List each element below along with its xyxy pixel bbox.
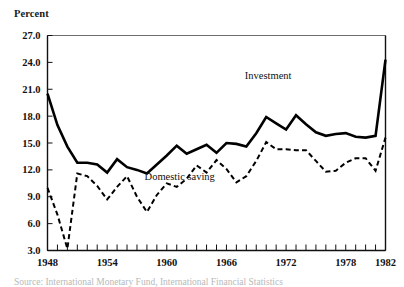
y-tick-label: 6.0 [27,218,40,229]
y-tick-label: 12.0 [22,164,40,175]
x-tick-label: 1948 [37,257,58,268]
y-tick-label: 15.0 [22,138,40,149]
series-line-investment [48,60,386,174]
x-tick-label: 1966 [216,257,237,268]
y-tick-label: 9.0 [27,191,40,202]
x-axis-ticks: 1948195419601966197219781982 [37,245,396,268]
x-tick-label: 1982 [375,257,396,268]
y-tick-label: 3.0 [27,245,40,256]
series-annotations: InvestmentDomestic saving [145,70,292,182]
source-note: Source: International Monetary Fund, Int… [14,277,283,287]
plot-border [48,36,386,251]
x-tick-label: 1972 [276,257,297,268]
x-tick-label: 1954 [97,257,119,268]
y-tick-label: 18.0 [22,111,40,122]
x-tick-label: 1960 [156,257,177,268]
y-tick-label: 27.0 [22,30,40,41]
y-tick-label: 24.0 [22,57,40,68]
y-tick-label: 21.0 [22,84,40,95]
plot-area: 3.06.09.012.015.018.021.024.027.0 194819… [0,0,404,287]
x-tick-label: 1978 [335,257,356,268]
series-label-investment: Investment [245,70,292,81]
chart-frame [48,36,386,251]
series-label-domestic-saving: Domestic saving [145,171,216,182]
data-series-group [48,60,386,249]
line-chart-svg: 3.06.09.012.015.018.021.024.027.0 194819… [0,0,404,287]
chart-figure: Percent 3.06.09.012.015.018.021.024.027.… [0,0,404,287]
